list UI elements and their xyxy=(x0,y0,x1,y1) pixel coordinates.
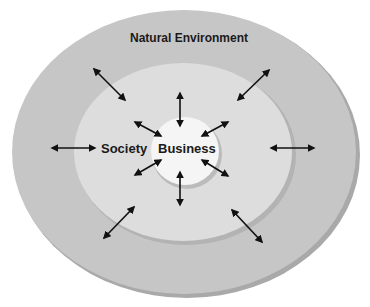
natural-environment-label: Natural Environment xyxy=(130,31,248,45)
business-label: Business xyxy=(158,141,216,156)
society-label: Society xyxy=(101,141,147,156)
